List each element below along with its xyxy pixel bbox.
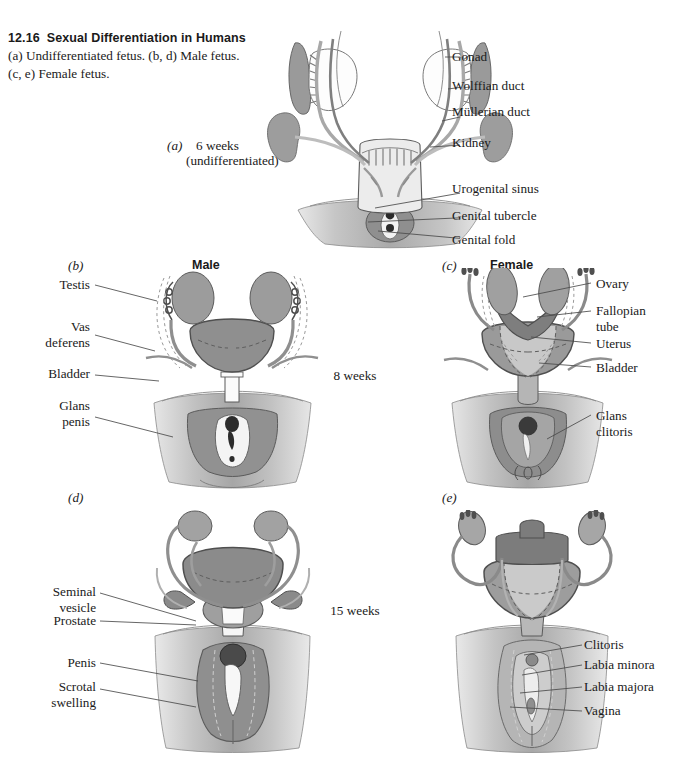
panel-a-leaders [330, 45, 460, 245]
testis-left-15wk [178, 511, 212, 541]
figure-caption-block: 12.16Sexual Differentiation in Humans (a… [8, 30, 278, 82]
figure-title-line: 12.16Sexual Differentiation in Humans [8, 30, 278, 46]
label-gonad: Gonad [452, 49, 487, 65]
label-bladder-female: Bladder [596, 360, 638, 376]
figure-caption-line-2: (c, e) Female fetus. [8, 65, 278, 82]
panel-a-marker: (a) [167, 138, 182, 154]
figure-title: Sexual Differentiation in Humans [47, 31, 246, 45]
label-glans-penis: Glans penis [20, 398, 90, 429]
label-glans-clitoris: Glans clitoris [596, 408, 633, 439]
label-mullerian-duct: Müllerian duct [452, 104, 530, 120]
label-ovary: Ovary [596, 276, 629, 292]
stage-label-8-weeks: 8 weeks [300, 368, 410, 384]
panel-e-marker: (e) [442, 490, 457, 506]
panel-b-leaders [95, 275, 205, 455]
gonad-left-shape [289, 43, 311, 114]
label-uterus: Uterus [596, 336, 631, 352]
panel-b-marker: (b) [68, 258, 83, 274]
panel-d-marker: (d) [68, 490, 83, 506]
label-penis: Penis [14, 655, 96, 671]
label-scrotal-swelling: Scrotal swelling [14, 679, 96, 710]
stage-label-15-weeks: 15 weeks [300, 603, 410, 619]
label-urogenital-sinus: Urogenital sinus [452, 181, 539, 197]
label-fallopian-tube: Fallopian tube [596, 303, 646, 334]
label-testis: Testis [25, 277, 90, 293]
label-clitoris: Clitoris [584, 637, 624, 653]
label-vas-deferens: Vas deferens [20, 319, 90, 350]
label-vagina: Vagina [584, 703, 621, 719]
label-genital-fold: Genital fold [452, 232, 515, 248]
figure-number: 12.16 [8, 31, 40, 45]
figure-caption-line-1: (a) Undifferentiated fetus. (b, d) Male … [8, 47, 278, 64]
figure-canvas: 12.16Sexual Differentiation in Humans (a… [0, 0, 681, 774]
label-prostate: Prostate [14, 613, 96, 629]
label-labia-minora: Labia minora [584, 657, 655, 673]
label-wolffian-duct: Wolffian duct [452, 78, 524, 94]
label-labia-majora: Labia majora [584, 679, 654, 695]
label-bladder-male: Bladder [18, 366, 90, 382]
testis-right-shape [250, 272, 292, 324]
label-kidney: Kidney [452, 135, 491, 151]
panel-a-stage-line-1: 6 weeks [196, 138, 239, 154]
panel-d-leaders [100, 585, 230, 715]
label-genital-tubercle: Genital tubercle [452, 208, 537, 224]
label-seminal-vesicle: Seminal vesicle [14, 584, 96, 615]
testis-right-15wk [254, 511, 288, 541]
